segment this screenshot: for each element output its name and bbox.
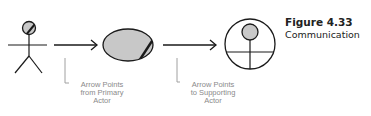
callout-label-supporting: Arrow Points to Supporting Actor xyxy=(182,81,244,105)
callout-label-primary: Arrow Points from Primary Actor xyxy=(73,81,131,105)
figure-caption: Figure 4.33 Communication xyxy=(285,16,360,41)
use-case-ellipse-icon xyxy=(103,29,156,61)
callout-bracket-primary xyxy=(65,58,69,83)
callout-line: Actor xyxy=(182,97,244,105)
callout-bracket-supporting xyxy=(177,58,180,82)
primary-actor-icon xyxy=(8,22,47,74)
figure-title: Communication xyxy=(285,29,360,41)
arrow-to-supporting-actor xyxy=(163,40,216,50)
arrow-to-use-case xyxy=(54,40,97,50)
figure-number: Figure 4.33 xyxy=(285,16,360,29)
callout-line: Actor xyxy=(73,97,131,105)
supporting-actor-icon xyxy=(225,19,275,69)
